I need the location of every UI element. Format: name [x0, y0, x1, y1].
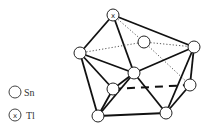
cluster-diagram: x Sn x Tl	[0, 0, 211, 134]
bond-sn_back-sn_right_inner	[144, 42, 190, 85]
legend: Sn x Tl	[9, 86, 35, 121]
atom-sn-icon	[138, 36, 150, 48]
atom-sn-icon	[128, 67, 140, 79]
bond-sn_bottom_left-sn_bottom_right	[98, 113, 166, 116]
tl-x-mark-icon: x	[13, 112, 17, 120]
bond-tl1-sn_left	[80, 15, 113, 53]
legend-label-sn: Sn	[24, 87, 35, 98]
atom-sn-icon	[188, 41, 200, 53]
bond-sn_left-sn_back	[80, 42, 144, 53]
legend-item-tl: x Tl	[9, 109, 35, 121]
bonds-layer	[80, 15, 194, 116]
legend-label-tl: Tl	[26, 110, 35, 121]
bond-tl1-sn_right	[113, 15, 194, 47]
legend-item-sn: Sn	[9, 86, 35, 98]
atom-sn-icon	[74, 47, 86, 59]
atom-sn-icon	[184, 79, 196, 91]
atom-sn-icon	[92, 110, 104, 122]
atom-sn-icon	[107, 83, 119, 95]
tl-x-mark-icon: x	[111, 12, 115, 20]
sn-symbol-icon	[9, 86, 21, 98]
atom-sn-icon	[160, 107, 172, 119]
atoms-layer: x	[74, 9, 200, 122]
bond-sn_center-sn_bottom_right	[134, 73, 166, 113]
